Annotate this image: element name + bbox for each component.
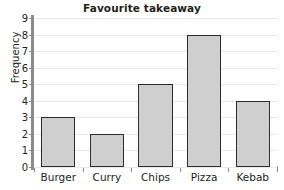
chart-title: Favourite takeaway [0, 2, 284, 14]
gridline [34, 167, 277, 168]
y-tick-label: 7 [2, 46, 28, 57]
x-tick-label: Chips [141, 171, 170, 183]
x-tick-label: Kebab [236, 171, 269, 183]
y-tick-label: 4 [2, 95, 28, 106]
x-tick-mark [180, 168, 181, 172]
y-tick-label: 9 [2, 13, 28, 24]
y-tick-mark [29, 150, 33, 151]
bar-chart: Favourite takeaway Frequency 0123456789 … [0, 0, 284, 190]
y-tick-label: 1 [2, 145, 28, 156]
gridline [34, 51, 277, 52]
x-tick-label: Burger [41, 171, 76, 183]
x-tick-mark [131, 168, 132, 172]
x-tick-mark [277, 168, 278, 172]
y-tick-label: 5 [2, 79, 28, 90]
x-tick-mark [228, 168, 229, 172]
gridline [34, 35, 277, 36]
x-tick-label: Curry [93, 171, 122, 183]
gridline [34, 68, 277, 69]
y-tick-label: 3 [2, 112, 28, 123]
bar [41, 117, 75, 167]
y-tick-mark [29, 51, 33, 52]
y-tick-mark [29, 35, 33, 36]
plot-area [34, 18, 277, 167]
y-tick-label: 8 [2, 29, 28, 40]
y-tick-mark [29, 68, 33, 69]
x-tick-label: Pizza [191, 171, 217, 183]
y-tick-mark [29, 101, 33, 102]
x-tick-mark [83, 168, 84, 172]
x-tick-mark [34, 168, 35, 172]
y-tick-mark [29, 18, 33, 19]
y-tick-mark [29, 167, 33, 168]
y-tick-mark [29, 134, 33, 135]
bar [138, 84, 172, 167]
y-tick-label: 2 [2, 128, 28, 139]
y-tick-mark [29, 117, 33, 118]
bar [90, 134, 124, 167]
y-tick-label: 0 [2, 162, 28, 173]
y-tick-label: 6 [2, 62, 28, 73]
gridline [34, 18, 277, 19]
y-tick-mark [29, 84, 33, 85]
bar [187, 35, 221, 167]
bar [236, 101, 270, 167]
